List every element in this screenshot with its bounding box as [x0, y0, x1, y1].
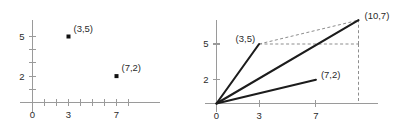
left-point-label-group: (3,5)(7,2) — [74, 23, 142, 74]
left-point-group — [67, 35, 119, 79]
dashed-a-to-sum — [259, 20, 358, 44]
x-tick-label-7: 7 — [114, 109, 119, 120]
left-scatter-panel: 037 25 (3,5)(7,2) — [19, 20, 160, 120]
right-vector-panel: 037 25 (3,5)(7,2)(10,7) — [203, 10, 389, 120]
y-tick-label-5: 5 — [19, 31, 24, 42]
x-tick-label-7: 7 — [313, 110, 318, 121]
vector-addition-figure: 037 25 (3,5)(7,2) 037 25 (3,5)(7,2)(10,7… — [0, 0, 393, 126]
x-tick-label-3: 3 — [66, 109, 71, 120]
y-tick-label-2: 2 — [19, 71, 24, 82]
y-tick-label-2: 2 — [203, 74, 208, 85]
vector-b-label: (7,2) — [321, 69, 341, 80]
x-tick-label-0: 0 — [214, 110, 219, 121]
right-helper-line-group — [259, 20, 358, 103]
point-label-3-5: (3,5) — [74, 23, 94, 34]
right-x-tick-label-group: 037 — [214, 110, 319, 121]
x-tick-label-3: 3 — [256, 110, 261, 121]
figure-canvas: 037 25 (3,5)(7,2) 037 25 (3,5)(7,2)(10,7… — [0, 0, 393, 126]
point-label-7-2: (7,2) — [122, 62, 142, 73]
y-tick-label-5: 5 — [203, 38, 208, 49]
right-y-tick-label-group: 25 — [203, 38, 208, 85]
data-point-3-5 — [67, 35, 71, 39]
data-point-7-2 — [115, 74, 119, 78]
left-x-tick-label-group: 037 — [30, 109, 119, 120]
vector-sum-label: (10,7) — [365, 10, 390, 21]
left-y-tick-label-group: 25 — [19, 31, 24, 82]
vector-a-label: (3,5) — [236, 33, 256, 44]
x-tick-label-0: 0 — [30, 109, 35, 120]
